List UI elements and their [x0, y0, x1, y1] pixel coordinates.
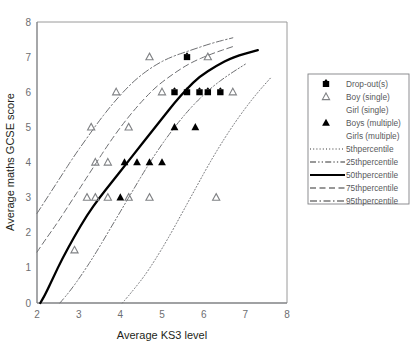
legend-label-Girl (single): Girl (single): [346, 105, 389, 115]
marker-body: [184, 89, 190, 95]
x-axis-title: Average KS3 level: [117, 329, 207, 341]
legend-label-Boy (single): Boy (single): [346, 92, 390, 102]
x-tick-label: 4: [118, 309, 124, 320]
y-tick-label: 0: [25, 298, 31, 309]
x-tick-label: 7: [243, 309, 249, 320]
scatter-chart: 2345678 012345678 Average KS3 level Aver…: [0, 0, 412, 354]
y-tick-label: 5: [25, 122, 31, 133]
legend-label-Drop-out(s): Drop-out(s): [346, 79, 388, 89]
legend-label-Girls (multiple): Girls (multiple): [346, 131, 400, 141]
y-tick-label: 3: [25, 192, 31, 203]
marker-body: [184, 54, 190, 60]
legend-label-Boys (multiple): Boys (multiple): [346, 118, 401, 128]
y-tick-label: 1: [25, 262, 31, 273]
x-tick-label: 8: [284, 309, 290, 320]
marker-body: [323, 81, 329, 87]
legend-label-50thpercentile: 50thpercentile: [346, 170, 399, 180]
x-tick-label: 5: [159, 309, 165, 320]
x-tick-label: 6: [201, 309, 207, 320]
chart-root: 2345678 012345678 Average KS3 level Aver…: [0, 0, 412, 354]
y-tick-label: 8: [25, 17, 31, 28]
legend-label-5thpercentile: 5thpercentile: [346, 144, 394, 154]
legend-label-95thpercentile: 95thpercentile: [346, 196, 399, 206]
marker-body: [217, 89, 223, 95]
marker-body: [196, 89, 202, 95]
legend: Drop-out(s)Boy (single)Girl (single)Boys…: [308, 74, 409, 206]
legend-label-25thpercentile: 25thpercentile: [346, 157, 399, 167]
legend-label-75thpercentile: 75thpercentile: [346, 183, 399, 193]
y-tick-label: 4: [25, 157, 31, 168]
y-axis-title: Average maths GCSE score: [4, 93, 16, 231]
y-tick-label: 6: [25, 87, 31, 98]
x-tick-label: 2: [34, 309, 40, 320]
y-axis-ticks: 012345678: [25, 17, 31, 309]
y-tick-label: 2: [25, 227, 31, 238]
plot-area: [37, 22, 287, 303]
marker-body: [171, 89, 177, 95]
y-tick-label: 7: [25, 52, 31, 63]
marker-body: [205, 89, 211, 95]
x-axis-ticks: 2345678: [34, 309, 290, 320]
x-tick-label: 3: [76, 309, 82, 320]
